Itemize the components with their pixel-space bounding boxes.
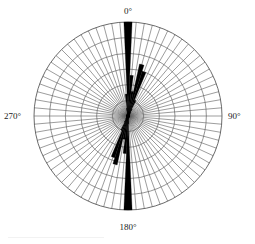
axis-tick-0: 0° [124,6,132,16]
axis-tick-180: 180° [119,222,136,232]
footer-rule [8,237,104,238]
grid-spoke [128,116,213,156]
grid-spoke [43,76,128,116]
rose-diagram-plot [0,0,255,244]
rose-diagram-figure: 0° 90° 180° 270° [0,0,255,244]
axis-tick-90: 90° [228,111,241,121]
axis-tick-270: 270° [4,111,21,121]
grid-spoke [128,116,168,201]
grid-spoke [88,31,128,116]
